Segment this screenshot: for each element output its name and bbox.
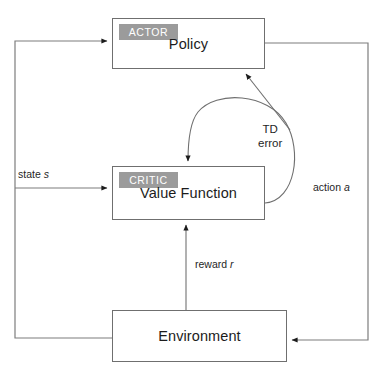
edge-label-reward-symbol: r (230, 258, 234, 270)
node-value-function-label: Value Function (113, 185, 264, 201)
edge-label-reward-text: reward (195, 258, 227, 270)
diagram-canvas: ACTOR Policy CRITIC Value Function Envir… (0, 0, 377, 385)
edge-label-action-text: action (313, 181, 341, 193)
edge-label-td-error-line1: TD (258, 122, 282, 136)
edge-label-state-text: state (18, 168, 41, 180)
node-value-function[interactable]: CRITIC Value Function (112, 166, 265, 220)
edge-label-reward: reward r (195, 258, 234, 270)
node-environment-label: Environment (113, 328, 286, 344)
edge-state-to-policy (15, 41, 112, 338)
node-policy[interactable]: ACTOR Policy (112, 18, 265, 69)
node-environment[interactable]: Environment (112, 310, 287, 362)
edge-label-action-symbol: a (344, 181, 350, 193)
edge-label-td-error-line2: error (258, 136, 282, 150)
node-policy-label: Policy (113, 36, 264, 52)
edge-label-state-symbol: s (44, 168, 49, 180)
edge-label-action: action a (313, 181, 350, 193)
edge-label-td-error: TD error (258, 122, 282, 151)
edge-label-state: state s (18, 168, 49, 180)
